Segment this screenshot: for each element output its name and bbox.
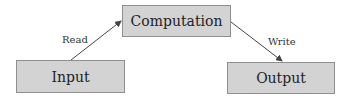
input-node: Input [16,60,125,93]
input-label: Input [51,69,89,85]
write-edge-label: Write [268,36,296,47]
diagram-canvas: Computation Input Output Read Write [0,0,347,99]
output-label: Output [256,70,306,86]
output-node: Output [227,62,335,94]
read-edge-label: Read [62,34,88,45]
computation-label: Computation [131,13,223,29]
computation-node: Computation [122,5,231,37]
